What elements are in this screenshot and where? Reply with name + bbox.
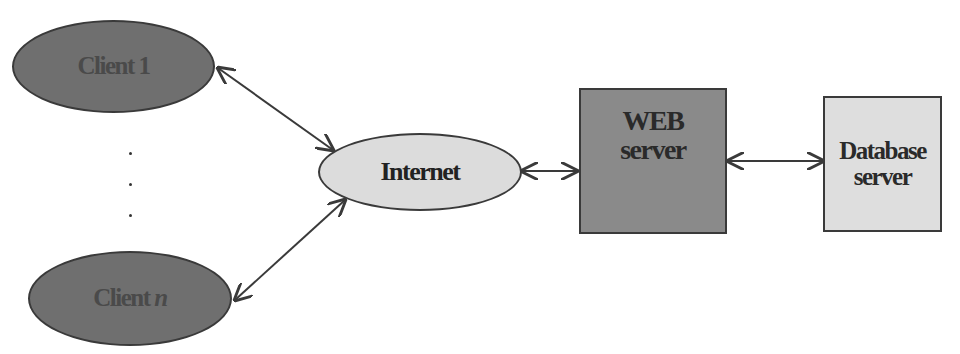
ellipsis-dot <box>129 152 132 155</box>
arrow-client1-internet <box>218 68 333 150</box>
internet-label: Internet <box>381 158 460 185</box>
ellipsis-dot <box>129 183 132 186</box>
client-n-label-var: n <box>154 284 166 311</box>
arrow-clientn-internet <box>235 200 345 300</box>
web-server-label-line2: server <box>620 135 686 164</box>
client-n-label: Client n <box>93 285 166 311</box>
client-1-label: Client 1 <box>77 53 149 79</box>
database-server-label-line1: Database <box>839 138 926 164</box>
internet-node: Internet <box>318 133 522 211</box>
client-n-node: Client n <box>28 251 232 346</box>
ellipsis-dot <box>129 214 132 217</box>
client-1-node: Client 1 <box>12 20 215 113</box>
database-server-node: Database server <box>823 96 942 232</box>
client-n-label-prefix: Client <box>93 284 154 311</box>
web-server-node: WEB server <box>579 88 727 234</box>
database-server-label-line2: server <box>854 164 912 190</box>
web-server-label-line1: WEB <box>623 106 684 135</box>
